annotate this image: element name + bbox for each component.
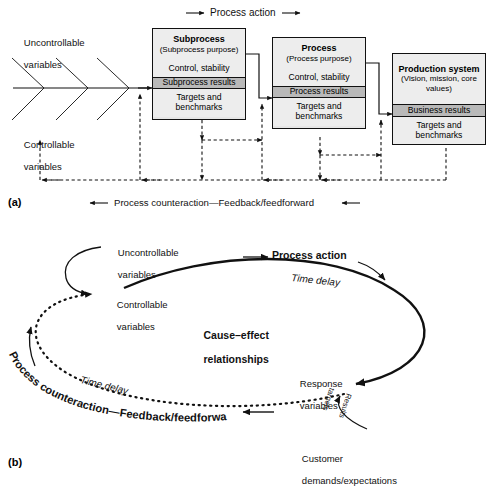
panel-b-customer-label: Customer demands/expectations xyxy=(286,442,397,490)
svg-text:Process counteraction—Feedback: Process counteraction—Feedback/feedforwa… xyxy=(0,0,228,424)
panel-b-customer-line2: demands/expectations xyxy=(302,475,397,486)
panel-b-results-targets-line2: targets xyxy=(321,387,337,412)
panel-b-results-targets-line1: Results xyxy=(337,392,353,419)
panel-b-caption: (b) xyxy=(8,456,22,468)
panel-b-counteraction-label: Process counteraction—Feedback/feedforwa… xyxy=(0,0,228,424)
panel-b-customer-line1: Customer xyxy=(302,453,343,464)
